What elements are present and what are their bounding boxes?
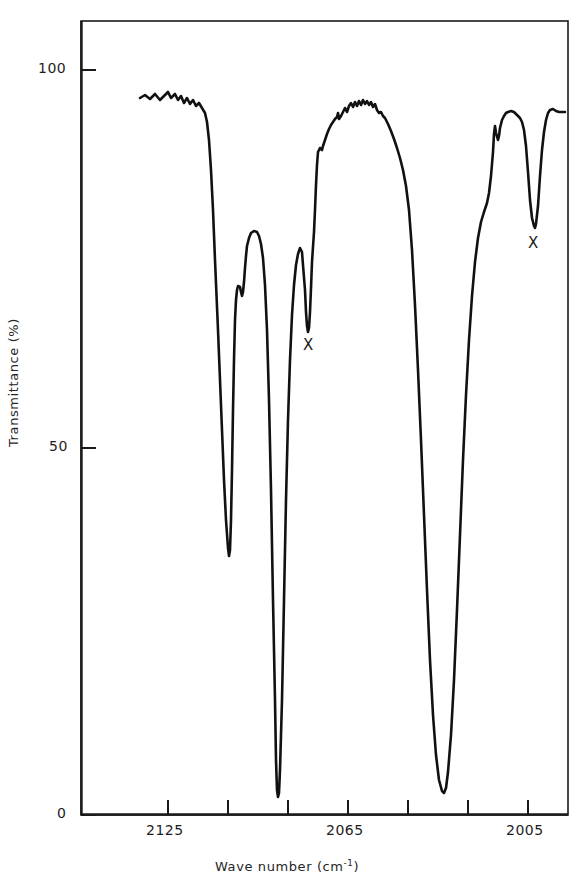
spectrum-curve bbox=[140, 92, 565, 797]
y-tick-label-100: 100 bbox=[38, 60, 66, 76]
y-tick-label-0: 0 bbox=[57, 805, 66, 821]
plot-canvas bbox=[0, 0, 587, 889]
x-axis-title: Wave number (cm-1) bbox=[215, 858, 359, 874]
y-tick-marks bbox=[81, 70, 96, 815]
ir-spectrum-chart: 100 50 0 2125 2065 2005 X X Transmittanc… bbox=[0, 0, 587, 889]
y-tick-label-50: 50 bbox=[49, 438, 68, 454]
x-axis-title-exponent: -1 bbox=[344, 858, 354, 868]
y-axis-title: Transmittance (%) bbox=[6, 318, 21, 447]
annotation-x-right: X bbox=[528, 234, 538, 252]
x-tick-label-2065: 2065 bbox=[326, 822, 364, 838]
annotation-x-left: X bbox=[303, 336, 313, 354]
x-axis-title-close: ) bbox=[354, 859, 360, 874]
x-tick-label-2125: 2125 bbox=[146, 822, 184, 838]
x-axis-title-base: Wave number (cm bbox=[215, 859, 344, 874]
x-tick-marks bbox=[168, 800, 528, 815]
x-tick-label-2005: 2005 bbox=[506, 822, 544, 838]
